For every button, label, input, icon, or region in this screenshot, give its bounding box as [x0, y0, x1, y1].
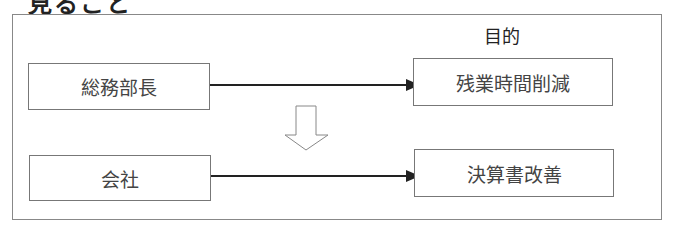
arrow-line-row1	[210, 84, 408, 86]
arrow-line-row2	[211, 175, 408, 177]
target-box-overtime-reduction: 残業時間削減	[413, 58, 613, 106]
column-label-purpose: 目的	[484, 22, 520, 48]
down-arrow-icon	[284, 105, 330, 151]
target-box-financial-statement-improvement: 決算書改善	[414, 149, 614, 197]
source-box-general-affairs-manager: 総務部長	[28, 63, 210, 110]
source-box-company: 会社	[29, 155, 211, 201]
